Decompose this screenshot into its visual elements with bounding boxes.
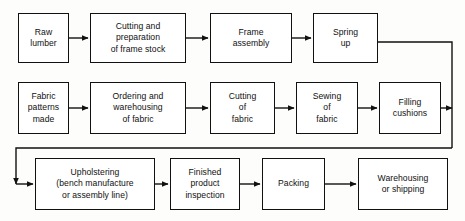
node-label-sewing-of-fabric: Sewing of fabric [311, 91, 344, 125]
node-upholstering[interactable]: Upholstering (bench manufacture or assem… [35, 158, 155, 210]
node-label-fabric-patterns-made: Fabric patterns made [26, 91, 61, 125]
node-label-packing: Packing [276, 178, 311, 189]
node-cutting-of-fabric[interactable]: Cutting of fabric [210, 82, 275, 134]
node-raw-lumber[interactable]: Raw lumber [18, 13, 69, 63]
node-frame-assembly[interactable]: Frame assembly [210, 13, 292, 63]
node-label-spring-up: Spring up [331, 27, 360, 50]
node-label-raw-lumber: Raw lumber [28, 27, 59, 50]
node-label-upholstering: Upholstering (bench manufacture or assem… [54, 167, 135, 201]
node-sewing-of-fabric[interactable]: Sewing of fabric [296, 82, 358, 134]
node-label-ordering-and-warehousing-of-fabric: Ordering and warehousing of fabric [111, 91, 166, 125]
node-fabric-patterns-made[interactable]: Fabric patterns made [18, 82, 69, 134]
node-finished-product-inspection[interactable]: Finished product inspection [170, 158, 240, 210]
node-ordering-and-warehousing-of-fabric[interactable]: Ordering and warehousing of fabric [90, 82, 186, 134]
node-label-cutting-of-fabric: Cutting of fabric [227, 91, 259, 125]
node-filling-cushions[interactable]: Filling cushions [379, 82, 441, 134]
node-label-frame-assembly: Frame assembly [231, 27, 272, 50]
node-packing[interactable]: Packing [262, 158, 325, 210]
node-label-finished-product-inspection: Finished product inspection [183, 167, 226, 201]
node-label-warehousing-or-shipping: Warehousing or shipping [376, 173, 431, 196]
node-spring-up[interactable]: Spring up [313, 13, 378, 63]
flowchart-canvas: Raw lumber Cutting and preparation of fr… [0, 0, 465, 221]
node-cutting-and-preparation-of-frame-stock[interactable]: Cutting and preparation of frame stock [90, 13, 186, 63]
node-warehousing-or-shipping[interactable]: Warehousing or shipping [358, 158, 448, 210]
node-label-cutting-and-preparation-of-frame-stock: Cutting and preparation of frame stock [109, 21, 168, 55]
node-label-filling-cushions: Filling cushions [391, 97, 429, 120]
